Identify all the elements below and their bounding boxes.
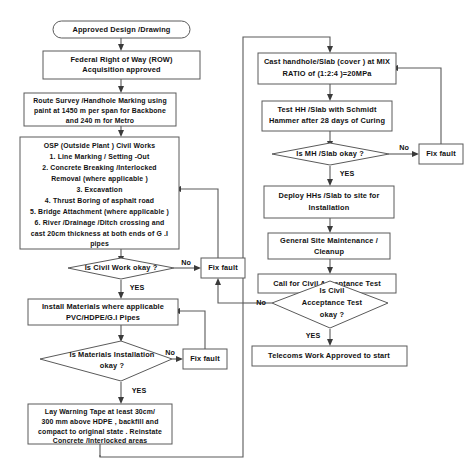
fix-fault-mh-slab-label: Fix fault <box>426 149 456 158</box>
node-start[interactable]: Approved Design /Drawing <box>53 21 190 38</box>
node-decision-mh-slab[interactable]: Is MH /Slab okay ? <box>272 143 389 165</box>
cast-handhole-line-2: RATIO of (1:2:4 )=20MPa <box>283 69 373 78</box>
osp-line-4: Removal (where applicable ) <box>51 175 148 183</box>
arrowhead-start-to-row <box>118 44 124 51</box>
route-survey-line-3: and 240 m for Metro <box>66 117 134 124</box>
edge-fix-materials-to-install <box>178 311 205 349</box>
general-site-maintenance-line-2: Cleanup <box>314 247 345 256</box>
test-hh-slab-line-2: Hammer after 28 days of Curing <box>269 116 386 125</box>
edge-acceptance-no-to-fix-civil <box>218 283 243 303</box>
arrowhead-maintenance-to-call <box>327 267 333 274</box>
decision-acceptance-line-2: Acceptance Test <box>302 298 363 307</box>
osp-line-2: 1. Line Marking / Setting -Out <box>50 153 150 161</box>
arrowhead-deploy-to-maintenance <box>327 226 333 233</box>
edge-label-civil-work-yes: YES <box>130 283 145 292</box>
lay-warning-tape-line-2: 300 mm above HDPE , backfill and <box>41 418 158 426</box>
deploy-hhs-line-2: Installation <box>309 203 350 212</box>
node-install-materials[interactable]: Install Materials where applicable PVC/H… <box>28 299 178 325</box>
arrowhead-acceptance-yes-to-telecoms <box>327 339 333 346</box>
decision-materials-line-2: okay ? <box>100 361 125 370</box>
edge-label-materials-yes: YES <box>132 386 147 395</box>
decision-acceptance-line-3: okay ? <box>320 310 345 319</box>
node-row-acquisition[interactable]: Federal Right of Way (ROW) Acquisition a… <box>43 51 200 79</box>
route-survey-line-1: Route Survey /Handhole Marking using <box>33 97 167 105</box>
row-acquisition-line-2: Acquisition approved <box>82 65 161 74</box>
install-materials-line-2: PVC/HDPE/G.I Pipes <box>66 313 140 322</box>
node-route-survey[interactable]: Route Survey /Handhole Marking using pai… <box>24 93 176 126</box>
fix-fault-civil-work-label: Fix fault <box>208 263 238 272</box>
osp-line-8: 6. River /Drainage /Ditch crossing and <box>35 219 165 227</box>
node-fix-fault-mh-slab[interactable]: Fix fault <box>419 144 463 164</box>
arrowhead-materials-no-to-fix <box>176 356 183 362</box>
osp-line-7: 5. Bridge Attachment (where applicable ) <box>30 208 169 216</box>
test-hh-slab-line-1: Test HH /Slab with Schmidt <box>277 105 376 114</box>
osp-line-5: 3. Excavation <box>77 186 123 193</box>
edge-label-mh-slab-yes: YES <box>340 169 355 178</box>
arrowhead-civil-no-to-fix <box>194 265 201 271</box>
arrowhead-materials-yes-to-tape <box>118 397 124 404</box>
decision-acceptance-line-1: Is Civil <box>319 286 344 295</box>
edge-label-mh-slab-no: No <box>399 143 409 152</box>
node-fix-fault-materials[interactable]: Fix fault <box>183 349 227 369</box>
arrowhead-cast-to-test <box>327 94 333 101</box>
edge-label-acceptance-yes: YES <box>306 331 321 340</box>
arrowhead-row-to-survey <box>118 86 124 93</box>
node-test-hh-slab[interactable]: Test HH /Slab with Schmidt Hammer after … <box>262 101 392 131</box>
edge-label-materials-no: No <box>165 348 175 357</box>
arrowhead-mh-yes-to-deploy <box>327 179 333 186</box>
node-osp-civil-works[interactable]: OSP (Outside Plant ) Civil Works 1. Line… <box>20 137 179 249</box>
decision-materials-line-1: Is Materials Installation <box>69 350 154 359</box>
telecoms-approved-label: Telecoms Work Approved to start <box>268 351 390 360</box>
edge-label-civil-work-no: No <box>181 258 191 267</box>
node-general-site-maintenance[interactable]: General Site Maintenance / Cleanup <box>268 233 390 259</box>
deploy-hhs-line-1: Deploy HHs /Slab to site for <box>278 191 379 200</box>
lay-warning-tape-line-3: compact to original state . Reinstate <box>38 428 162 436</box>
osp-line-9: cast 20cm thickness at both ends of G .I <box>31 230 168 237</box>
node-fix-fault-civil-work[interactable]: Fix fault <box>201 258 245 278</box>
lay-warning-tape-line-4: Concrete /Interlocked areas <box>53 437 147 444</box>
start-label: Approved Design /Drawing <box>72 25 170 34</box>
node-decision-materials[interactable]: Is Materials Installation okay ? <box>40 341 172 381</box>
osp-line-10: pipes <box>90 240 109 248</box>
arrowhead-tape-to-cast-handhole <box>327 46 333 53</box>
arrowhead-civil-yes-to-install <box>118 292 124 299</box>
cast-handhole-line-1: Cast handhole/Slab (cover ) at MIX <box>264 57 390 66</box>
row-acquisition-line-1: Federal Right of Way (ROW) <box>70 55 173 64</box>
edge-label-acceptance-no: No <box>256 298 266 307</box>
node-cast-handhole[interactable]: Cast handhole/Slab (cover ) at MIX RATIO… <box>258 53 396 84</box>
decision-civil-work-label: Is Civil Work okay ? <box>85 263 158 272</box>
arrowhead-acceptance-no-to-fix-civil <box>215 278 221 285</box>
flowchart-canvas: Approved Design /Drawing Federal Right o… <box>0 0 469 476</box>
osp-line-3: 2. Concrete Breaking /Interlocked <box>42 164 156 172</box>
edge-fix-mh-to-cast <box>396 68 441 144</box>
osp-line-6: 4. Thrust Boring of asphalt road <box>45 197 154 205</box>
lay-warning-tape-line-1: Lay Warning Tape at least 30cm/ <box>45 408 155 416</box>
route-survey-line-2: paint at 1450 m per span for Backbone <box>34 107 166 115</box>
node-decision-civil-work[interactable]: Is Civil Work okay ? <box>68 258 174 279</box>
node-telecoms-approved[interactable]: Telecoms Work Approved to start <box>252 346 407 366</box>
flowchart-svg: Approved Design /Drawing Federal Right o… <box>0 0 469 476</box>
node-lay-warning-tape[interactable]: Lay Warning Tape at least 30cm/ 300 mm a… <box>28 404 172 444</box>
fix-fault-materials-label: Fix fault <box>190 354 220 363</box>
arrowhead-survey-to-osp <box>118 130 124 137</box>
node-deploy-hhs[interactable]: Deploy HHs /Slab to site for Installatio… <box>264 186 394 218</box>
osp-line-1: OSP (Outside Plant ) Civil Works <box>44 142 155 150</box>
general-site-maintenance-line-1: General Site Maintenance / <box>280 236 378 245</box>
arrowhead-mh-no-to-fix <box>412 151 419 157</box>
edge-fix-civil-to-osp <box>179 189 218 258</box>
install-materials-line-1: Install Materials where applicable <box>42 302 164 311</box>
decision-mh-slab-label: Is MH /Slab okay ? <box>296 149 364 158</box>
